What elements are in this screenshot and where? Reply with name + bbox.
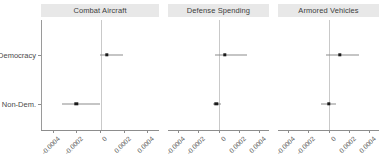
- x-axis-tick-label: 0: [219, 135, 227, 143]
- estimate-point: [75, 102, 78, 105]
- facet-strip-label: Defense Spending: [187, 6, 250, 15]
- x-axis-tick: [349, 130, 350, 133]
- x-axis-tick: [369, 130, 370, 133]
- y-axis-label-non-dem: Non-Dem.: [2, 100, 36, 109]
- facet-strip-label: Armored Vehicles: [298, 6, 358, 15]
- x-axis-tick-label: 0.0002: [112, 135, 131, 154]
- estimate-point: [105, 53, 108, 56]
- estimate-point: [338, 53, 341, 56]
- x-axis-tick-label: 0.0004: [136, 135, 155, 154]
- zero-reference-line: [329, 20, 330, 130]
- zero-reference-line: [219, 20, 220, 130]
- x-axis-tick: [178, 130, 179, 133]
- x-axis-tick: [100, 130, 101, 133]
- facet-panel-combat-aircraft: [41, 20, 160, 130]
- x-axis-tick: [53, 130, 54, 133]
- x-axis-tick-label: 0.0004: [248, 135, 267, 154]
- x-axis-tick-label: -0.0002: [64, 135, 85, 156]
- estimate-point: [223, 53, 226, 56]
- x-axis-tick-label: 0: [100, 135, 108, 143]
- confidence-interval-bar: [62, 104, 100, 105]
- x-axis-tick: [259, 130, 260, 133]
- facet-strip-combat-aircraft: Combat Aircraft: [41, 4, 159, 17]
- confidence-interval-bar: [326, 55, 358, 56]
- x-axis-tick: [124, 130, 125, 133]
- x-axis-tick: [219, 130, 220, 133]
- estimate-point: [215, 102, 218, 105]
- x-axis-tick-label: -0.0004: [40, 135, 61, 156]
- x-axis-tick: [308, 130, 309, 133]
- confidence-interval-bar: [100, 55, 124, 56]
- x-axis-tick-label: -0.0004: [275, 135, 296, 156]
- x-axis-tick: [198, 130, 199, 133]
- facet-panel-defense-spending: [168, 20, 269, 130]
- x-axis-tick: [239, 130, 240, 133]
- facet-panel-armored-vehicles: [278, 20, 379, 130]
- x-axis-tick-label: 0: [329, 135, 337, 143]
- x-axis-tick-label: -0.0002: [185, 135, 206, 156]
- facet-strip-label: Combat Aircraft: [73, 6, 126, 15]
- x-axis-tick-label: -0.0002: [295, 135, 316, 156]
- x-axis-tick-label: 0.0002: [227, 135, 246, 154]
- y-axis-label-democracy: Democracy: [0, 51, 36, 60]
- estimate-point: [327, 102, 330, 105]
- x-axis-tick-label: 0.0002: [337, 135, 356, 154]
- x-axis-tick: [288, 130, 289, 133]
- x-axis-tick-label: 0.0004: [358, 135, 377, 154]
- x-axis-tick: [76, 130, 77, 133]
- facet-strip-armored-vehicles: Armored Vehicles: [278, 4, 379, 17]
- zero-reference-line: [101, 20, 102, 130]
- coefficient-plot: Combat Aircraft Defense Spending Armored…: [0, 0, 382, 165]
- confidence-interval-bar: [215, 55, 246, 56]
- facet-strip-defense-spending: Defense Spending: [168, 4, 269, 17]
- x-axis-tick-label: -0.0004: [165, 135, 186, 156]
- x-axis-tick: [147, 130, 148, 133]
- x-axis-tick: [329, 130, 330, 133]
